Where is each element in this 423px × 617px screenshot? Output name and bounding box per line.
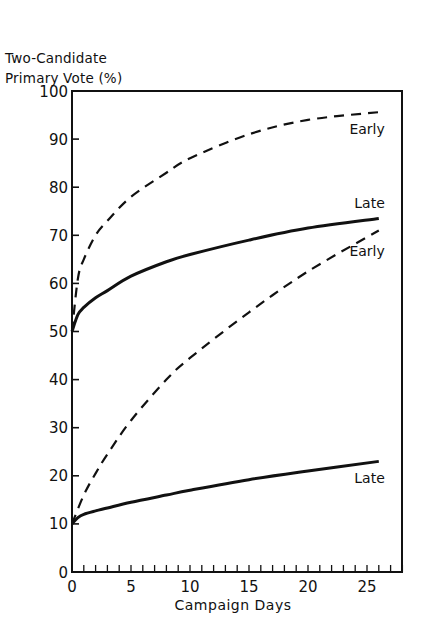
y-tick-label: 70	[49, 227, 68, 245]
x-tick-label: 10	[180, 578, 199, 596]
y-tick-label: 20	[49, 467, 68, 485]
y-tick-label: 60	[49, 275, 68, 293]
curve-label-early: Early	[349, 121, 384, 137]
x-tick-label: 0	[67, 578, 77, 596]
line-chart: 0102030405060708090100 0510152025 EarlyL…	[0, 0, 423, 617]
y-tick-label: 40	[49, 371, 68, 389]
curve-early-dashed	[72, 112, 379, 331]
curve-late-solid	[72, 461, 379, 524]
y-tick-label: 80	[49, 179, 68, 197]
plot-border	[72, 91, 402, 572]
x-tick-label: 15	[239, 578, 258, 596]
plot-frame	[72, 91, 402, 572]
x-tick-label: 25	[357, 578, 376, 596]
curve-label-late: Late	[354, 195, 384, 211]
y-tick-label: 10	[49, 515, 68, 533]
x-tick-label: 5	[126, 578, 136, 596]
y-tick-label: 30	[49, 419, 68, 437]
curve-early-dashed	[72, 230, 379, 523]
y-axis: 0102030405060708090100	[39, 83, 79, 582]
curve-labels: EarlyLateEarlyLate	[349, 121, 384, 486]
y-tick-label: 50	[49, 323, 68, 341]
curve-label-early: Early	[349, 243, 384, 259]
x-axis: 0510152025	[67, 565, 402, 596]
curves	[72, 112, 379, 524]
y-tick-label: 100	[39, 83, 68, 101]
x-axis-title: Campaign Days	[175, 597, 292, 613]
curve-late-solid	[72, 218, 379, 331]
y-tick-label: 90	[49, 131, 68, 149]
x-tick-label: 20	[298, 578, 317, 596]
curve-label-late: Late	[354, 470, 384, 486]
